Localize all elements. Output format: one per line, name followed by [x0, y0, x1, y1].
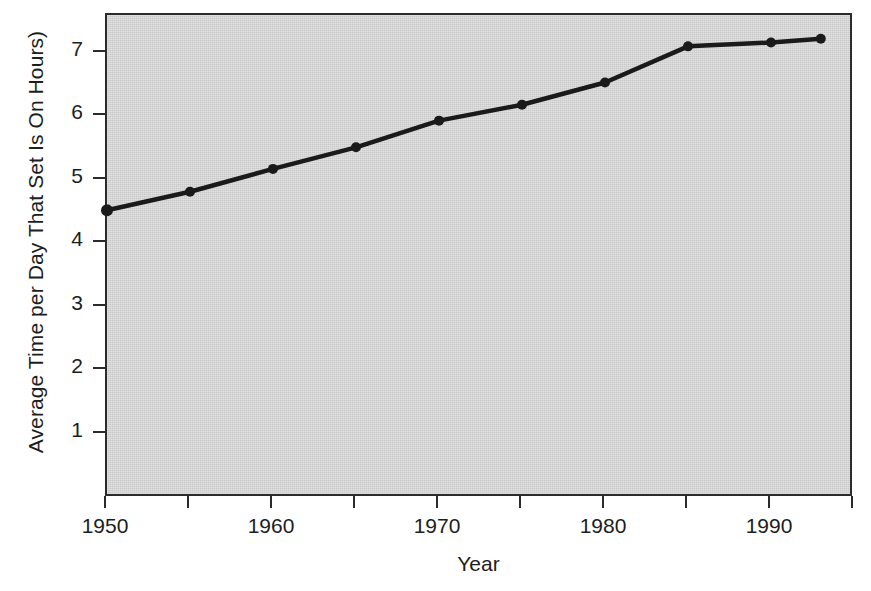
x-tick-mark — [104, 496, 106, 508]
x-tick-mark — [187, 496, 189, 508]
y-tick-label: 3 — [43, 291, 83, 315]
y-tick-mark — [93, 431, 105, 433]
y-tick-label: 6 — [43, 100, 83, 124]
y-tick-mark — [93, 304, 105, 306]
x-tick-label: 1970 — [397, 514, 477, 538]
plot-area — [105, 13, 852, 496]
data-point-marker — [600, 78, 610, 88]
y-tick-mark — [93, 50, 105, 52]
y-tick-mark — [93, 177, 105, 179]
data-point-marker — [185, 187, 195, 197]
x-tick-label: 1950 — [65, 514, 145, 538]
y-tick-label: 4 — [43, 227, 83, 251]
data-point-marker — [101, 204, 113, 216]
y-tick-mark — [93, 113, 105, 115]
x-tick-mark — [602, 496, 604, 508]
x-axis-title: Year — [105, 552, 852, 576]
chart-figure: Average Time per Day That Set Is On Hour… — [0, 0, 871, 591]
x-tick-label: 1990 — [729, 514, 809, 538]
data-point-marker — [351, 142, 361, 152]
data-point-marker — [517, 100, 527, 110]
y-tick-mark — [93, 240, 105, 242]
x-tick-mark — [768, 496, 770, 508]
y-tick-label: 7 — [43, 37, 83, 61]
x-tick-mark — [685, 496, 687, 508]
data-point-marker — [683, 41, 693, 51]
x-tick-label: 1980 — [563, 514, 643, 538]
y-tick-label: 5 — [43, 164, 83, 188]
series-polyline — [107, 39, 821, 210]
y-tick-label: 2 — [43, 354, 83, 378]
data-series-line — [107, 15, 854, 498]
x-tick-mark — [851, 496, 853, 508]
y-tick-label: 1 — [43, 418, 83, 442]
x-tick-mark — [519, 496, 521, 508]
x-tick-label: 1960 — [231, 514, 311, 538]
x-tick-mark — [353, 496, 355, 508]
data-point-marker — [816, 34, 826, 44]
x-tick-mark — [436, 496, 438, 508]
y-tick-mark — [93, 367, 105, 369]
data-point-marker — [434, 116, 444, 126]
data-point-marker — [268, 164, 278, 174]
x-tick-mark — [270, 496, 272, 508]
data-point-marker — [766, 38, 776, 48]
